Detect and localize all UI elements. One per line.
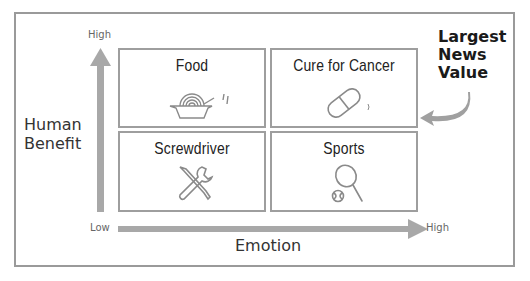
noodle-bowl-icon	[168, 84, 238, 124]
quadrant-title: Food	[133, 56, 251, 76]
x-axis-low-label: Low	[90, 222, 110, 233]
y-axis-title: Human Benefit	[24, 115, 82, 153]
x-axis-high-label: High	[426, 222, 449, 233]
tools-icon	[174, 163, 214, 203]
quadrant-food: Food	[118, 48, 266, 128]
callout-line3: Value	[438, 64, 506, 82]
callout-line2: News	[438, 46, 506, 64]
quadrant-title: Sports	[285, 139, 403, 159]
y-axis-title-line1: Human	[24, 115, 82, 134]
y-axis-high-label: High	[88, 29, 111, 40]
y-axis-arrow	[90, 48, 112, 212]
quadrant-sports: Sports	[270, 131, 418, 212]
pill-capsule-icon	[322, 82, 382, 124]
curved-arrow-icon	[416, 90, 476, 130]
callout-line1: Largest	[438, 28, 506, 46]
quadrant-title: Cure for Cancer	[285, 56, 403, 76]
x-axis-title: Emotion	[235, 236, 301, 255]
tennis-racket-icon	[328, 163, 368, 207]
quadrant-cure-for-cancer: Cure for Cancer	[270, 48, 418, 128]
quadrant-screwdriver: Screwdriver	[118, 131, 266, 212]
quadrant-title: Screwdriver	[133, 139, 251, 159]
largest-news-value-callout: Largest News Value	[438, 28, 506, 82]
y-axis-title-line2: Benefit	[24, 134, 82, 153]
